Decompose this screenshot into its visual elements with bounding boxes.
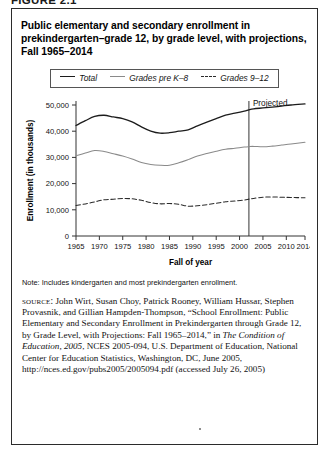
svg-text:1985: 1985	[161, 242, 178, 251]
figure-inner: Public elementary and secondary enrollme…	[12, 9, 317, 444]
legend-label-g912: Grades 9–12	[220, 73, 268, 83]
legend-line-total-icon	[60, 76, 75, 77]
legend-line-g912-icon	[201, 76, 216, 77]
figure-page: FIGURE 2.1 Public elementary and seconda…	[0, 0, 331, 457]
chart-plot-area: 010,00020,00030,00040,00050,000196519701…	[21, 95, 310, 267]
svg-text:1980: 1980	[138, 242, 155, 251]
legend-item-g912: Grades 9–12	[201, 73, 268, 83]
series-line-grades-9-12	[76, 197, 305, 206]
svg-text:Fall of year: Fall of year	[169, 258, 213, 267]
chart-title: Public elementary and secondary enrollme…	[21, 19, 308, 59]
svg-text:10,000: 10,000	[46, 205, 69, 214]
svg-text:1970: 1970	[91, 242, 108, 251]
svg-text:1965: 1965	[68, 242, 85, 251]
legend-item-prek8: Grades pre K–8	[110, 73, 188, 83]
chart-note: Note: Includes kindergarten and most pre…	[22, 278, 308, 288]
svg-text:2005: 2005	[254, 242, 271, 251]
svg-text:50,000: 50,000	[46, 100, 69, 109]
svg-text:20,000: 20,000	[46, 179, 69, 188]
line-chart: 010,00020,00030,00040,00050,000196519701…	[21, 95, 310, 267]
figure-number-label: FIGURE 2.1	[11, 0, 77, 6]
svg-text:2010: 2010	[278, 242, 295, 251]
legend-line-prek8-icon	[110, 76, 125, 77]
source-kicker: source:	[22, 296, 53, 306]
svg-text:2000: 2000	[231, 242, 248, 251]
svg-text:30,000: 30,000	[46, 153, 69, 162]
svg-text:0: 0	[65, 231, 69, 240]
svg-text:1990: 1990	[184, 242, 201, 251]
series-line-grades-pre-k-8	[76, 142, 305, 165]
stray-speck	[199, 428, 201, 430]
svg-text:1975: 1975	[114, 242, 131, 251]
figure-frame: Public elementary and secondary enrollme…	[11, 8, 318, 445]
legend-label-prek8: Grades pre K–8	[129, 73, 188, 83]
legend-label-total: Total	[79, 73, 97, 83]
svg-text:1995: 1995	[208, 242, 225, 251]
chart-source: source: John Wirt, Susan Choy, Patrick R…	[22, 296, 308, 376]
chart-legend: Total Grades pre K–8 Grades 9–12	[50, 69, 278, 88]
series-line-total	[76, 104, 305, 133]
legend-item-total: Total	[60, 73, 97, 83]
svg-text:2014: 2014	[297, 242, 310, 251]
svg-text:40,000: 40,000	[46, 127, 69, 136]
legend-wrapper: Total Grades pre K–8 Grades 9–12	[21, 69, 308, 88]
svg-text:Enrollment (in thousands): Enrollment (in thousands)	[26, 119, 35, 221]
